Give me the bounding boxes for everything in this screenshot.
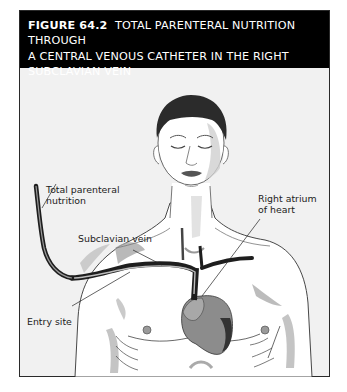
figure-caption-header: FIGURE 64.2 TOTAL PARENTERAL NUTRITION T… xyxy=(20,11,329,68)
figure-frame: FIGURE 64.2 TOTAL PARENTERAL NUTRITION T… xyxy=(19,10,330,377)
label-tpn-line-1: Total parenteral xyxy=(46,184,120,195)
caption-line-2: A CENTRAL VENOUS CATHETER IN THE RIGHT xyxy=(28,49,321,64)
figure-number: FIGURE 64.2 xyxy=(28,19,107,32)
head xyxy=(154,95,229,187)
caption-line-1: FIGURE 64.2 TOTAL PARENTERAL NUTRITION T… xyxy=(28,18,321,49)
label-total-parenteral-nutrition: Total parenteral nutrition xyxy=(46,184,120,206)
label-subclavian-vein: Subclavian vein xyxy=(78,233,152,244)
label-tpn-line-2: nutrition xyxy=(46,195,120,206)
label-right-atrium-line-2: of heart xyxy=(258,204,317,215)
label-right-atrium: Right atrium of heart xyxy=(258,193,317,215)
tpn-anatomy-illustration xyxy=(20,68,331,377)
label-right-atrium-line-1: Right atrium xyxy=(258,193,317,204)
label-entry-site: Entry site xyxy=(27,316,72,327)
